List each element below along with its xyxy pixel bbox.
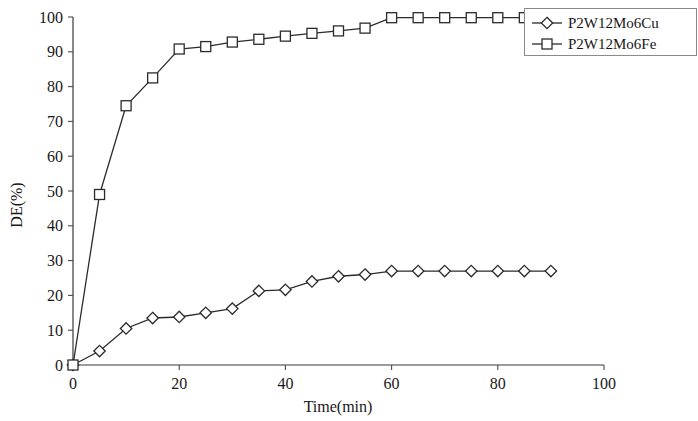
y-tick-label: 50 xyxy=(47,183,63,200)
data-point-square xyxy=(542,39,552,49)
y-tick-label: 60 xyxy=(47,148,63,165)
series-P2W12Mo6Fe xyxy=(68,13,529,370)
legend-label: P2W12Mo6Fe xyxy=(568,36,657,52)
x-tick-label: 80 xyxy=(490,375,506,392)
data-point-diamond xyxy=(200,307,211,318)
data-point-diamond xyxy=(147,312,158,323)
x-axis-title: Time(min) xyxy=(304,398,373,416)
series-P2W12Mo6Cu xyxy=(67,265,556,370)
data-point-square xyxy=(493,13,503,23)
data-point-square xyxy=(413,13,423,23)
legend-label: P2W12Mo6Cu xyxy=(568,15,659,31)
legend-item-P2W12Mo6Fe[interactable]: P2W12Mo6Fe xyxy=(532,36,657,52)
series-line-P2W12Mo6Fe xyxy=(73,18,524,365)
chart-series-layer xyxy=(67,13,556,371)
y-axis-title: DE(%) xyxy=(8,182,26,227)
data-point-square xyxy=(148,73,158,83)
data-point-diamond xyxy=(466,265,477,276)
y-tick-label: 10 xyxy=(47,322,63,339)
data-point-diamond xyxy=(174,311,185,322)
x-tick-label: 100 xyxy=(592,375,616,392)
data-point-square xyxy=(466,13,476,23)
y-tick-label: 80 xyxy=(47,78,63,95)
x-axis-tick-labels: 020406080100 xyxy=(69,375,616,392)
y-tick-label: 70 xyxy=(47,113,63,130)
data-point-square xyxy=(307,28,317,38)
y-tick-label: 30 xyxy=(47,252,63,269)
x-tick-label: 40 xyxy=(277,375,293,392)
data-point-square xyxy=(387,13,397,23)
data-point-diamond xyxy=(280,284,291,295)
data-point-diamond xyxy=(306,276,317,287)
data-point-diamond xyxy=(359,269,370,280)
data-point-diamond xyxy=(227,303,238,314)
data-point-square xyxy=(254,34,264,44)
x-tick-label: 0 xyxy=(69,375,77,392)
data-point-square xyxy=(227,37,237,47)
data-point-diamond xyxy=(439,265,450,276)
data-point-diamond xyxy=(492,265,503,276)
x-tick-label: 60 xyxy=(384,375,400,392)
chart-legend: P2W12Mo6CuP2W12Mo6Fe xyxy=(525,9,697,56)
chart-container: 0102030405060708090100 020406080100 DE(%… xyxy=(0,0,698,421)
x-axis-ticks xyxy=(73,365,604,370)
y-axis-tick-labels: 0102030405060708090100 xyxy=(39,9,63,374)
y-axis-ticks xyxy=(68,17,73,365)
data-point-diamond xyxy=(333,271,344,282)
data-point-square xyxy=(440,13,450,23)
data-point-diamond xyxy=(545,265,556,276)
data-point-square xyxy=(174,44,184,54)
data-point-diamond xyxy=(253,285,264,296)
y-tick-label: 0 xyxy=(55,357,63,374)
data-point-square xyxy=(360,23,370,33)
y-tick-label: 100 xyxy=(39,9,63,26)
data-point-square xyxy=(121,101,131,111)
data-point-diamond xyxy=(386,265,397,276)
data-point-square xyxy=(280,31,290,41)
data-point-square xyxy=(68,360,78,370)
data-point-square xyxy=(95,189,105,199)
y-tick-label: 40 xyxy=(47,217,63,234)
data-point-square xyxy=(201,42,211,52)
y-tick-label: 20 xyxy=(47,287,63,304)
line-chart: 0102030405060708090100 020406080100 DE(%… xyxy=(0,0,698,421)
data-point-diamond xyxy=(412,265,423,276)
y-tick-label: 90 xyxy=(47,43,63,60)
x-tick-label: 20 xyxy=(171,375,187,392)
data-point-square xyxy=(334,26,344,36)
data-point-diamond xyxy=(519,265,530,276)
